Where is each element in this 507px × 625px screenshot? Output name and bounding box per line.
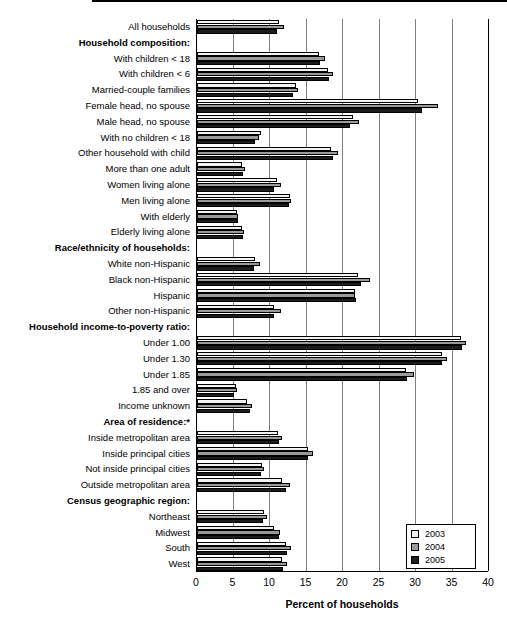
bar-2004 bbox=[197, 199, 291, 203]
bar-2005 bbox=[197, 61, 320, 65]
category-label: Elderly living alone bbox=[0, 226, 193, 237]
category-label: Census geographic region: bbox=[0, 495, 193, 506]
bar-2005 bbox=[197, 203, 289, 207]
bar-2004 bbox=[197, 183, 281, 187]
bar-2004 bbox=[197, 451, 313, 455]
bar-2004 bbox=[197, 483, 290, 487]
legend-label-2003: 2003 bbox=[425, 529, 445, 539]
bar-2003 bbox=[197, 20, 279, 24]
bar-2003 bbox=[197, 99, 418, 103]
bar-2005 bbox=[197, 77, 329, 81]
category-label: Northeast bbox=[0, 511, 193, 522]
category-label: More than one adult bbox=[0, 163, 193, 174]
x-tick-15: 15 bbox=[286, 576, 326, 588]
x-tick-5: 5 bbox=[213, 576, 253, 588]
bar-2003 bbox=[197, 68, 328, 72]
bar-group bbox=[197, 193, 488, 209]
category-label: Household composition: bbox=[0, 37, 193, 48]
category-label: Not inside principal cities bbox=[0, 463, 193, 474]
bar-2003 bbox=[197, 83, 296, 87]
category-label: Household income-to-poverty ratio: bbox=[0, 321, 193, 332]
category-label: Women living alone bbox=[0, 179, 193, 190]
legend-item-2005: 2005 bbox=[411, 554, 471, 566]
category-label: White non-Hispanic bbox=[0, 258, 193, 269]
category-label: All households bbox=[0, 21, 193, 32]
bar-2005 bbox=[197, 235, 243, 239]
bar-group bbox=[197, 382, 488, 398]
category-label: Other household with child bbox=[0, 147, 193, 158]
category-label: Income unknown bbox=[0, 400, 193, 411]
category-label: Hispanic bbox=[0, 290, 193, 301]
bar-2005 bbox=[197, 456, 308, 460]
bar-2004 bbox=[197, 404, 252, 408]
bar-2005 bbox=[197, 519, 263, 523]
category-label: Race/ethnicity of households: bbox=[0, 242, 193, 253]
bar-group bbox=[197, 145, 488, 161]
category-label: Male head, no spouse bbox=[0, 116, 193, 127]
category-label: Area of residence:* bbox=[0, 416, 193, 427]
bar-2003 bbox=[197, 147, 331, 151]
bar-group bbox=[197, 351, 488, 367]
bar-rows bbox=[197, 19, 488, 571]
bar-2005 bbox=[197, 172, 243, 176]
bar-2003 bbox=[197, 178, 277, 182]
bar-2004 bbox=[197, 56, 325, 60]
bar-group bbox=[197, 335, 488, 351]
bar-2003 bbox=[197, 352, 442, 356]
bar-2003 bbox=[197, 526, 274, 530]
bar-group bbox=[197, 446, 488, 462]
x-tick-20: 20 bbox=[322, 576, 362, 588]
category-label-column: All householdsHousehold composition:With… bbox=[0, 19, 193, 572]
bar-2005 bbox=[197, 535, 279, 539]
category-label: With elderly bbox=[0, 211, 193, 222]
bar-2004 bbox=[197, 25, 284, 29]
bar-2003 bbox=[197, 336, 461, 340]
bar-group bbox=[197, 398, 488, 414]
bar-group bbox=[197, 114, 488, 130]
bar-2005 bbox=[197, 108, 422, 112]
bar-2003 bbox=[197, 542, 286, 546]
category-label: Inside metropolitan area bbox=[0, 432, 193, 443]
bar-2005 bbox=[197, 361, 442, 365]
bar-2005 bbox=[197, 93, 293, 97]
bar-2005 bbox=[197, 156, 333, 160]
bar-2003 bbox=[197, 257, 255, 261]
bar-2004 bbox=[197, 135, 259, 139]
legend-swatch-2004 bbox=[411, 543, 419, 551]
bar-2004 bbox=[197, 372, 414, 376]
bar-2003 bbox=[197, 289, 355, 293]
bar-2004 bbox=[197, 357, 447, 361]
bar-2003 bbox=[197, 305, 274, 309]
bar-2005 bbox=[197, 140, 255, 144]
bar-2004 bbox=[197, 230, 244, 234]
bar-2005 bbox=[197, 219, 238, 223]
category-label: Inside principal cities bbox=[0, 448, 193, 459]
bar-2005 bbox=[197, 393, 234, 397]
bar-2004 bbox=[197, 309, 281, 313]
category-label: Under 1.30 bbox=[0, 353, 193, 364]
bar-group bbox=[197, 272, 488, 288]
category-label: With children < 6 bbox=[0, 68, 193, 79]
bar-group bbox=[197, 98, 488, 114]
category-label: Outside metropolitan area bbox=[0, 479, 193, 490]
legend-item-2003: 2003 bbox=[411, 528, 471, 540]
legend: 2003 2004 2005 bbox=[406, 524, 476, 569]
legend-label-2004: 2004 bbox=[425, 542, 445, 552]
bar-2004 bbox=[197, 88, 298, 92]
category-label: Other non-Hispanic bbox=[0, 305, 193, 316]
bar-2003 bbox=[197, 131, 261, 135]
bar-2003 bbox=[197, 273, 358, 277]
bar-chart: All householdsHousehold composition:With… bbox=[0, 0, 507, 625]
bar-group bbox=[197, 224, 488, 240]
bar-group bbox=[197, 177, 488, 193]
x-tick-10: 10 bbox=[249, 576, 289, 588]
category-label: Men living alone bbox=[0, 195, 193, 206]
bar-group bbox=[197, 130, 488, 146]
x-tick-35: 35 bbox=[432, 576, 472, 588]
gridline-40 bbox=[488, 19, 489, 571]
category-label: West bbox=[0, 558, 193, 569]
bar-2004 bbox=[197, 562, 287, 566]
bar-2003 bbox=[197, 478, 282, 482]
x-tick-30: 30 bbox=[395, 576, 435, 588]
x-tick-40: 40 bbox=[468, 576, 507, 588]
